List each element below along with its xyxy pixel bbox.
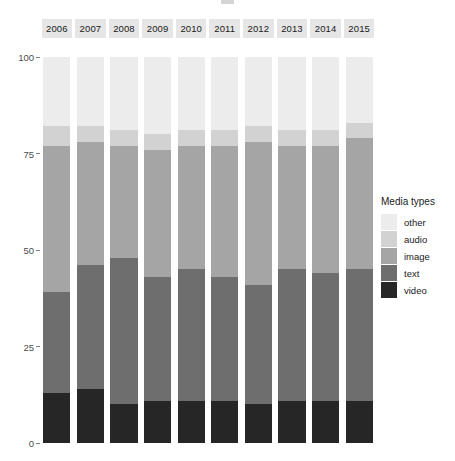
legend-label-image: image	[404, 251, 430, 262]
y-tick-label: 75	[23, 148, 34, 159]
bar-column-2013	[278, 57, 305, 443]
facet-label-2012: 2012	[243, 19, 274, 38]
bar-column-2015	[346, 57, 373, 443]
legend-swatch-video	[381, 282, 397, 298]
facet-label-2013: 2013	[277, 19, 308, 38]
bar-segment-2008-image	[110, 146, 137, 258]
bar-segment-2014-image	[312, 146, 339, 273]
legend-item-audio[interactable]: audio	[381, 231, 455, 247]
y-tick-label: 100	[18, 52, 34, 63]
plot-panel	[40, 57, 376, 443]
bar-segment-2009-video	[144, 401, 171, 443]
bar-column-2007	[77, 57, 104, 443]
bar-segment-2009-other	[144, 57, 171, 134]
bar-segment-2013-video	[278, 401, 305, 443]
bar-segment-2012-audio	[245, 126, 272, 141]
bar-segment-2011-other	[211, 57, 238, 130]
bar-segment-2007-audio	[77, 126, 104, 141]
bar-segment-2008-video	[110, 404, 137, 443]
bar-segment-2006-text	[43, 292, 70, 392]
y-tick-100: 100	[18, 52, 34, 63]
bar-segment-2007-other	[77, 57, 104, 126]
y-tick-label: 0	[29, 438, 34, 449]
bar-segment-2007-text	[77, 265, 104, 389]
bar-segment-2009-text	[144, 277, 171, 401]
bar-segment-2011-text	[211, 277, 238, 401]
legend-swatch-text	[381, 265, 397, 281]
bar-column-2010	[178, 57, 205, 443]
legend-item-image[interactable]: image	[381, 248, 455, 264]
bar-segment-2008-other	[110, 57, 137, 130]
bar-segment-2015-video	[346, 401, 373, 443]
bar-segment-2006-image	[43, 146, 70, 293]
bar-segment-2010-other	[178, 57, 205, 130]
bar-column-2006	[43, 57, 70, 443]
legend: Media types otheraudioimagetextvideo	[381, 196, 455, 299]
facet-label-2014: 2014	[310, 19, 341, 38]
legend-swatch-other	[381, 214, 397, 230]
bar-segment-2012-image	[245, 142, 272, 285]
bar-segment-2015-audio	[346, 123, 373, 138]
bar-segment-2015-text	[346, 269, 373, 400]
facet-label-2008: 2008	[109, 19, 140, 38]
legend-label-audio: audio	[404, 234, 427, 245]
legend-item-text[interactable]: text	[381, 265, 455, 281]
bar-column-2012	[245, 57, 272, 443]
facet-label-2010: 2010	[176, 19, 207, 38]
bar-segment-2014-audio	[312, 130, 339, 145]
bar-segment-2009-audio	[144, 134, 171, 149]
bar-segment-2008-text	[110, 258, 137, 405]
y-tick-50: 50	[23, 245, 34, 256]
bar-segment-2013-text	[278, 269, 305, 400]
bar-segment-2011-image	[211, 146, 238, 277]
y-tick-75: 75	[23, 148, 34, 159]
facet-label-2015: 2015	[344, 19, 375, 38]
bar-segment-2015-other	[346, 57, 373, 123]
bar-segment-2006-audio	[43, 126, 70, 145]
bar-segment-2006-other	[43, 57, 70, 126]
legend-items: otheraudioimagetextvideo	[381, 214, 455, 298]
bar-segment-2007-image	[77, 142, 104, 266]
y-axis: 0255075100	[0, 50, 40, 452]
bar-segment-2014-video	[312, 401, 339, 443]
bar-segment-2006-video	[43, 393, 70, 443]
bar-segment-2010-text	[178, 269, 205, 400]
y-tick-label: 50	[23, 245, 34, 256]
bar-segment-2011-audio	[211, 130, 238, 145]
bar-segment-2012-other	[245, 57, 272, 126]
legend-label-text: text	[404, 268, 419, 279]
bar-column-2011	[211, 57, 238, 443]
bar-segment-2015-image	[346, 138, 373, 269]
bar-column-2014	[312, 57, 339, 443]
bar-segment-2014-other	[312, 57, 339, 130]
bar-segment-2014-text	[312, 273, 339, 400]
bar-segment-2010-video	[178, 401, 205, 443]
stacked-bar-chart: 2006200720082009201020112012201320142015…	[0, 0, 455, 461]
legend-label-video: video	[404, 285, 427, 296]
bar-segment-2013-other	[278, 57, 305, 130]
bar-segment-2011-video	[211, 401, 238, 443]
legend-swatch-image	[381, 248, 397, 264]
y-tick-25: 25	[23, 341, 34, 352]
bar-column-2009	[144, 57, 171, 443]
bar-segment-2012-text	[245, 285, 272, 405]
facet-strip: 2006200720082009201020112012201320142015	[40, 19, 376, 38]
legend-item-video[interactable]: video	[381, 282, 455, 298]
bar-segment-2010-image	[178, 146, 205, 270]
legend-swatch-audio	[381, 231, 397, 247]
facet-label-2011: 2011	[209, 19, 240, 38]
bar-segment-2008-audio	[110, 130, 137, 145]
bar-segment-2013-audio	[278, 130, 305, 145]
bar-column-2008	[110, 57, 137, 443]
facet-label-2009: 2009	[142, 19, 173, 38]
title-clipped-mark	[221, 0, 234, 4]
legend-label-other: other	[404, 217, 426, 228]
bar-segment-2009-image	[144, 150, 171, 277]
bar-segment-2007-video	[77, 389, 104, 443]
facet-label-2007: 2007	[75, 19, 106, 38]
y-tick-label: 25	[23, 341, 34, 352]
legend-item-other[interactable]: other	[381, 214, 455, 230]
facet-label-2006: 2006	[42, 19, 73, 38]
y-tick-0: 0	[29, 438, 34, 449]
bar-segment-2013-image	[278, 146, 305, 270]
